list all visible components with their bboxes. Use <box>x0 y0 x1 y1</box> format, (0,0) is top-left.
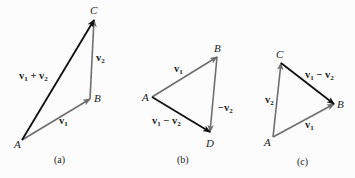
vector-v2-arrow <box>273 63 281 137</box>
point-a-label: A <box>141 91 149 103</box>
panel-b: B D A v1 −v2 v1 − v2 (b) <box>141 42 233 166</box>
point-c-label: C <box>90 4 98 16</box>
point-a-label: A <box>263 136 271 148</box>
vector-sum-label: v1 + v2 <box>19 70 48 83</box>
panel-a: C B A v1 + v2 v2 v1 (a) <box>13 4 105 166</box>
vector-diff-label: v1 − v2 <box>152 115 181 128</box>
point-a-label: A <box>13 138 21 150</box>
caption-c: (c) <box>297 156 308 168</box>
point-b-label: B <box>214 42 221 54</box>
vector-v1-arrow <box>152 57 217 97</box>
diagram-svg: C B A v1 + v2 v2 v1 (a) B D A v1 <box>0 0 355 178</box>
point-d-label: D <box>205 137 214 149</box>
caption-a: (a) <box>54 154 65 166</box>
caption-b: (b) <box>177 154 189 166</box>
point-c-label: C <box>276 48 284 60</box>
vector-v2-label: v2 <box>265 94 274 107</box>
vector-diff-label: v1 − v2 <box>305 69 334 82</box>
vector-v2-label: v2 <box>96 52 105 65</box>
vector-v2-arrow <box>90 20 94 99</box>
vector-v1-arrow <box>22 99 90 140</box>
point-b-label: B <box>94 92 101 104</box>
vector-neg-v2-arrow <box>210 57 217 132</box>
point-b-label: B <box>337 98 344 110</box>
vector-v1-arrow <box>273 104 334 137</box>
vector-v1-label: v1 <box>174 63 183 76</box>
vector-diagram: C B A v1 + v2 v2 v1 (a) B D A v1 <box>0 0 355 178</box>
vector-v1-label: v1 <box>305 119 314 132</box>
panel-c: C B A v2 v1 − v2 v1 (c) <box>263 48 344 168</box>
vector-v1-label: v1 <box>59 115 68 128</box>
vector-neg-v2-label: −v2 <box>218 102 233 115</box>
